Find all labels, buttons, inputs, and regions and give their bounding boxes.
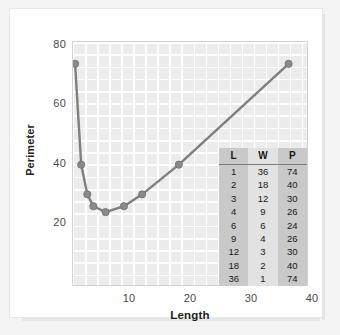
y-axis-tick-label: 20 [40, 216, 66, 228]
table-row: 36174 [219, 272, 307, 285]
table-header-cell: W [248, 148, 277, 165]
table-cell: 2 [219, 178, 248, 191]
data-point-marker [90, 203, 97, 210]
data-point-marker [78, 161, 85, 168]
table-cell: 40 [278, 178, 307, 191]
data-point-marker [102, 209, 109, 216]
table-row: 9426 [219, 232, 307, 245]
data-point-marker [139, 191, 146, 198]
table-row: 12330 [219, 245, 307, 258]
table-cell: 9 [248, 205, 277, 218]
x-axis-title: Length [72, 309, 308, 321]
table-cell: 4 [248, 232, 277, 245]
table-cell: 1 [219, 165, 248, 179]
table-cell: 6 [219, 219, 248, 232]
table-cell: 2 [248, 259, 277, 272]
table-row: 21840 [219, 178, 307, 191]
y-axis-tick-label: 40 [40, 157, 66, 169]
x-axis-tick-label: 10 [116, 292, 142, 304]
data-point-marker [285, 60, 292, 67]
table-row: 6624 [219, 219, 307, 232]
table-cell: 30 [278, 245, 307, 258]
table-cell: 12 [248, 192, 277, 205]
data-point-marker [73, 60, 79, 67]
table-row: 13674 [219, 165, 307, 179]
table-row: 4926 [219, 205, 307, 218]
table-cell: 3 [219, 192, 248, 205]
data-point-marker [120, 203, 127, 210]
figure-card: 80 60 40 20 10 20 30 40 Perimeter Length… [9, 8, 323, 318]
x-axis-tick-label: 20 [177, 292, 203, 304]
table-cell: 36 [219, 272, 248, 285]
figure-root: 80 60 40 20 10 20 30 40 Perimeter Length… [0, 0, 340, 335]
table-body: 1367421840312304926662494261233018240361… [219, 165, 307, 286]
data-point-marker [175, 161, 182, 168]
table-cell: 12 [219, 245, 248, 258]
data-point-marker [84, 191, 91, 198]
table-cell: 26 [278, 232, 307, 245]
table-header-row: L W P [219, 148, 307, 165]
chart-container: 80 60 40 20 10 20 30 40 Perimeter Length… [10, 9, 340, 335]
table-cell: 40 [278, 259, 307, 272]
table-cell: 18 [248, 178, 277, 191]
x-axis-tick-label: 40 [299, 292, 325, 304]
table-cell: 24 [278, 219, 307, 232]
table-cell: 74 [278, 272, 307, 285]
y-axis-title: Perimeter [24, 115, 36, 185]
data-table: L W P 1367421840312304926662494261233018… [219, 148, 307, 286]
table-cell: 30 [278, 192, 307, 205]
table-cell: 3 [248, 245, 277, 258]
table-cell: 18 [219, 259, 248, 272]
y-axis-tick-label: 60 [40, 97, 66, 109]
table-cell: 26 [278, 205, 307, 218]
table-cell: 4 [219, 205, 248, 218]
table-header-cell: P [278, 148, 307, 165]
table-cell: 6 [248, 219, 277, 232]
x-axis-tick-label: 30 [238, 292, 264, 304]
table-cell: 36 [248, 165, 277, 179]
table-row: 31230 [219, 192, 307, 205]
table-cell: 1 [248, 272, 277, 285]
table-cell: 74 [278, 165, 307, 179]
table-header-cell: L [219, 148, 248, 165]
table-cell: 9 [219, 232, 248, 245]
y-axis-tick-label: 80 [40, 38, 66, 50]
table-row: 18240 [219, 259, 307, 272]
